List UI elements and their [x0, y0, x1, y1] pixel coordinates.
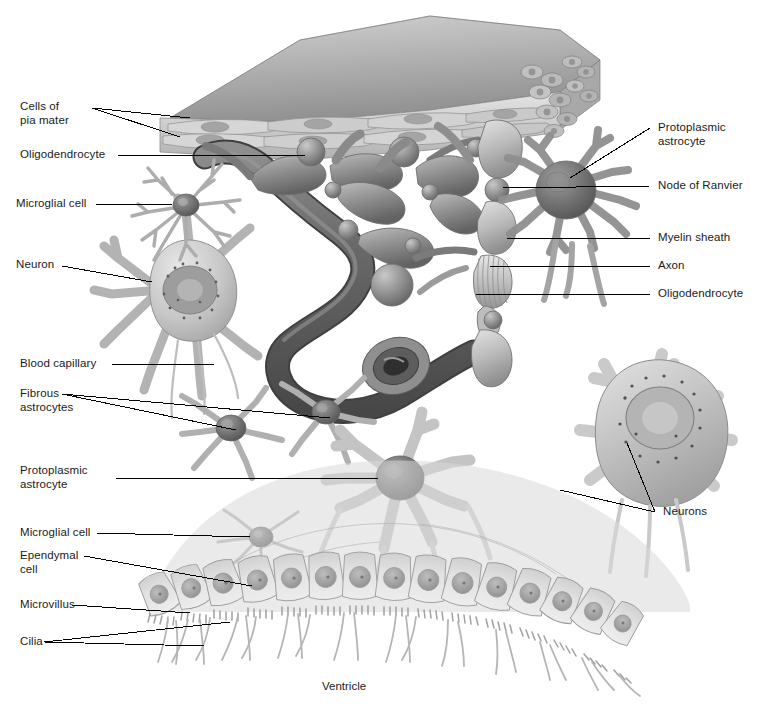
fibrous-astrocyte-a	[182, 388, 282, 478]
ependymal-cell-layer	[135, 461, 690, 696]
figure-canvas: Cells of pia mater Oligodendrocyte Micro…	[0, 0, 759, 707]
label-microglial-cell-upper: Microglial cell	[16, 197, 87, 211]
label-ependymal-cell: Ependymal cell	[20, 549, 78, 576]
label-microvillus: Microvillus	[20, 598, 75, 612]
microglial-cell-upper-cell	[132, 160, 240, 260]
label-neuron-left: Neuron	[16, 258, 54, 272]
label-node-of-ranvier: Node of Ranvier	[658, 179, 743, 193]
label-oligodendrocyte-left: Oligodendrocyte	[20, 148, 105, 162]
label-protoplasmic-astrocyte-right: Protoplasmic astrocyte	[658, 121, 726, 148]
label-microglial-cell-lower: Microglial cell	[20, 526, 91, 540]
protoplasmic-astrocyte-right-cell	[502, 130, 636, 304]
label-axon: Axon	[658, 259, 685, 273]
label-oligodendrocyte-right: Oligodendrocyte	[658, 287, 743, 301]
label-myelin-sheath: Myelin sheath	[658, 231, 730, 245]
neuron-left-cell	[94, 198, 258, 418]
pia-mater-sheet	[160, 16, 600, 160]
label-cells-of-pia-mater: Cells of pia mater	[20, 100, 69, 127]
caption-ventricle: Ventricle	[322, 680, 366, 692]
label-cilia: Cilia	[20, 635, 43, 649]
label-neurons-right: Neurons	[663, 505, 707, 519]
label-blood-capillary: Blood capillary	[20, 357, 96, 371]
label-fibrous-astrocytes: Fibrous astrocytes	[20, 387, 73, 414]
cilia	[158, 613, 640, 696]
label-protoplasmic-astrocyte-left: Protoplasmic astrocyte	[20, 464, 88, 491]
neuroglia-illustration	[0, 0, 759, 707]
